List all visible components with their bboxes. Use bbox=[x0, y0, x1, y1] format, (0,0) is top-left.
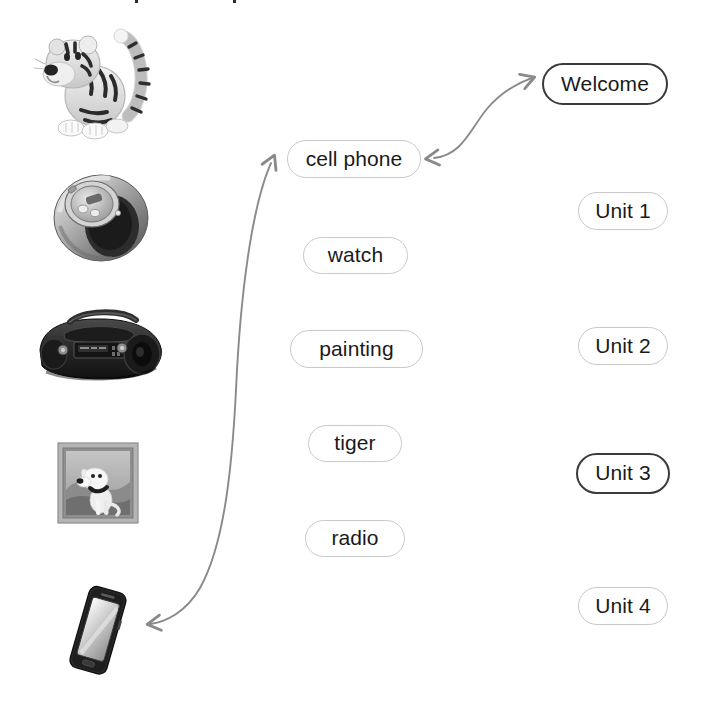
word-pill-cell-phone[interactable]: cell phone bbox=[287, 140, 421, 178]
word-pill-radio[interactable]: radio bbox=[305, 520, 405, 557]
cell-phone-picture[interactable] bbox=[57, 580, 137, 680]
unit-pill-label: Unit 1 bbox=[595, 200, 650, 221]
word-pill-label: radio bbox=[331, 527, 378, 548]
word-pill-label: watch bbox=[328, 244, 383, 265]
word-pill-label: tiger bbox=[334, 432, 375, 453]
arrow-cellphone-picture bbox=[150, 163, 271, 624]
word-pill-painting[interactable]: painting bbox=[290, 330, 423, 368]
unit-pill-unit-1[interactable]: Unit 1 bbox=[578, 192, 668, 230]
painting-picture[interactable] bbox=[57, 442, 139, 524]
unit-pill-label: Unit 4 bbox=[595, 595, 650, 616]
unit-pill-label: Unit 3 bbox=[595, 462, 650, 483]
unit-pill-label: Welcome bbox=[561, 73, 649, 94]
unit-pill-unit-2[interactable]: Unit 2 bbox=[578, 327, 668, 365]
tiger-picture[interactable] bbox=[33, 24, 168, 144]
watch-picture[interactable] bbox=[46, 168, 156, 263]
top-crop-artifact bbox=[233, 0, 236, 3]
unit-pill-unit-4[interactable]: Unit 4 bbox=[578, 587, 668, 625]
cell-phone-illustration bbox=[57, 580, 137, 680]
unit-pill-welcome[interactable]: Welcome bbox=[542, 63, 668, 105]
unit-pill-unit-3[interactable]: Unit 3 bbox=[576, 453, 670, 494]
word-pill-watch[interactable]: watch bbox=[303, 237, 408, 274]
arrow-cellphone-welcome bbox=[434, 78, 532, 158]
word-pill-tiger[interactable]: tiger bbox=[308, 425, 402, 462]
unit-pill-label: Unit 2 bbox=[595, 335, 650, 356]
tiger-illustration bbox=[33, 24, 168, 144]
worksheet-canvas: cell phone watch painting tiger radio We… bbox=[0, 0, 702, 709]
word-pill-label: cell phone bbox=[306, 148, 403, 169]
radio-illustration bbox=[30, 306, 170, 388]
radio-picture[interactable] bbox=[30, 306, 170, 388]
watch-illustration bbox=[46, 168, 156, 263]
word-pill-label: painting bbox=[319, 338, 393, 359]
painting-illustration bbox=[57, 442, 139, 524]
top-crop-artifact bbox=[135, 0, 138, 3]
